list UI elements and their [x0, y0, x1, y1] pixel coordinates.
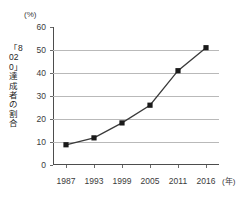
x-tick-mark: [122, 165, 123, 168]
x-tick-mark: [206, 165, 207, 168]
x-tick-label: 1999: [113, 176, 132, 186]
y-tick-label: 60: [26, 22, 46, 32]
y-tick-mark: [50, 50, 53, 51]
x-tick-label: 2016: [197, 176, 216, 186]
x-tick-label: 2011: [169, 176, 187, 186]
gridline: [53, 142, 219, 143]
gridline: [53, 73, 219, 74]
y-tick-mark: [50, 27, 53, 28]
y-tick-mark: [50, 165, 53, 166]
y-tick-label: 0: [26, 160, 46, 170]
y-tick-label: 30: [26, 91, 46, 101]
chart-figure: (%) 「8020」達成者の割合 0102030405060 198719931…: [0, 0, 249, 203]
x-tick-mark: [150, 165, 151, 168]
y-tick-mark: [50, 73, 53, 74]
y-tick-label: 40: [26, 68, 46, 78]
y-tick-mark: [50, 96, 53, 97]
gridline: [53, 119, 219, 120]
y-axis-unit-label: (%): [24, 10, 36, 19]
y-tick-label: 10: [26, 137, 46, 147]
gridline: [53, 96, 219, 97]
y-tick-label: 50: [26, 45, 46, 55]
x-axis-unit-label: (年): [222, 175, 235, 186]
plot-area: [53, 27, 219, 165]
x-axis-line: [53, 164, 219, 165]
y-tick-mark: [50, 119, 53, 120]
gridline: [53, 50, 219, 51]
y-axis-title: 「8020」達成者の割合: [9, 44, 23, 129]
y-tick-label: 20: [26, 114, 46, 124]
x-tick-mark: [94, 165, 95, 168]
x-tick-label: 1993: [85, 176, 104, 186]
x-tick-mark: [66, 165, 67, 168]
x-tick-label: 2005: [141, 176, 160, 186]
x-tick-mark: [178, 165, 179, 168]
y-tick-mark: [50, 142, 53, 143]
x-tick-label: 1987: [57, 176, 76, 186]
